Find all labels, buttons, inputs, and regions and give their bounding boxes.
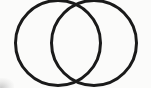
figure-canvas <box>0 0 151 88</box>
left-circle <box>16 1 101 86</box>
two-circles-diagram <box>0 0 151 88</box>
right-circle <box>52 1 137 86</box>
